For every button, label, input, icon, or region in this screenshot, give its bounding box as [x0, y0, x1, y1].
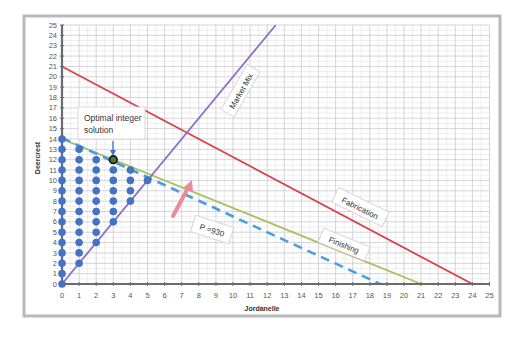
feasible-point — [58, 218, 66, 226]
feasible-point — [58, 280, 66, 288]
chart: 0123456789101112131415161718192021222324… — [0, 0, 523, 337]
feasible-point — [110, 177, 118, 185]
feasible-point — [58, 208, 66, 216]
x-tick-label: 23 — [451, 291, 459, 300]
feasible-point — [110, 218, 118, 226]
feasible-point — [92, 208, 100, 216]
y-axis-title: Deercrest — [34, 141, 41, 174]
y-tick-label: 10 — [49, 176, 57, 185]
feasible-point — [58, 187, 66, 195]
y-tick-label: 22 — [49, 52, 57, 61]
x-tick-label: 14 — [297, 291, 305, 300]
y-tick-label: 25 — [49, 21, 57, 30]
x-tick-label: 25 — [485, 291, 493, 300]
x-tick-label: 24 — [468, 291, 476, 300]
x-tick-label: 15 — [314, 291, 322, 300]
y-tick-label: 0 — [53, 280, 57, 289]
feasible-point — [92, 156, 100, 164]
feasible-point — [92, 177, 100, 185]
feasible-point — [75, 197, 83, 205]
x-tick-label: 3 — [111, 291, 115, 300]
y-tick-label: 19 — [49, 83, 57, 92]
x-tick-label: 6 — [163, 291, 167, 300]
y-tick-label: 18 — [49, 93, 57, 102]
callout-line2: solution — [84, 125, 114, 135]
feasible-point — [110, 208, 118, 216]
x-tick-label: 17 — [349, 291, 357, 300]
x-tick-label: 21 — [417, 291, 425, 300]
y-tick-label: 16 — [49, 114, 57, 123]
feasible-point — [58, 166, 66, 174]
feasible-point — [58, 249, 66, 257]
y-tick-label: 1 — [53, 269, 57, 278]
y-tick-label: 14 — [49, 135, 57, 144]
feasible-point — [75, 249, 83, 257]
y-tick-label: 7 — [53, 207, 57, 216]
feasible-point — [92, 187, 100, 195]
feasible-point — [75, 259, 83, 267]
feasible-point — [110, 166, 118, 174]
feasible-point — [58, 259, 66, 267]
y-tick-label: 3 — [53, 249, 57, 258]
feasible-point — [127, 166, 135, 174]
feasible-point — [75, 208, 83, 216]
feasible-point — [58, 177, 66, 185]
feasible-point — [92, 197, 100, 205]
optimal-point — [110, 156, 118, 164]
y-tick-label: 20 — [49, 72, 57, 81]
x-tick-label: 9 — [214, 291, 218, 300]
x-tick-label: 19 — [383, 291, 391, 300]
y-tick-label: 23 — [49, 41, 57, 50]
y-tick-label: 11 — [49, 166, 57, 175]
x-tick-label: 20 — [400, 291, 408, 300]
y-tick-label: 15 — [49, 124, 57, 133]
feasible-point — [127, 187, 135, 195]
x-tick-label: 16 — [331, 291, 339, 300]
x-tick-label: 12 — [263, 291, 271, 300]
feasible-point — [92, 218, 100, 226]
feasible-point — [92, 166, 100, 174]
x-tick-label: 10 — [229, 291, 237, 300]
feasible-point — [58, 228, 66, 236]
callout-line1: Optimal integer — [84, 113, 142, 123]
feasible-point — [75, 156, 83, 164]
feasible-point — [144, 177, 152, 185]
x-tick-label: 13 — [280, 291, 288, 300]
feasible-point — [58, 156, 66, 164]
y-tick-label: 4 — [53, 238, 57, 247]
x-tick-label: 2 — [94, 291, 98, 300]
x-tick-label: 7 — [180, 291, 184, 300]
feasible-point — [110, 187, 118, 195]
feasible-point — [75, 187, 83, 195]
y-tick-label: 21 — [49, 62, 57, 71]
feasible-point — [75, 146, 83, 154]
feasible-point — [127, 177, 135, 185]
x-tick-label: 22 — [434, 291, 442, 300]
feasible-point — [75, 228, 83, 236]
feasible-point — [92, 228, 100, 236]
feasible-point — [58, 239, 66, 247]
feasible-point — [110, 197, 118, 205]
y-tick-label: 13 — [49, 145, 57, 154]
y-tick-label: 9 — [53, 186, 57, 195]
y-tick-label: 5 — [53, 228, 57, 237]
x-tick-label: 4 — [128, 291, 132, 300]
y-tick-label: 2 — [53, 259, 57, 268]
feasible-point — [127, 197, 135, 205]
feasible-point — [58, 197, 66, 205]
y-tick-label: 24 — [49, 31, 57, 40]
x-tick-label: 8 — [197, 291, 201, 300]
feasible-point — [92, 239, 100, 247]
y-tick-label: 12 — [49, 155, 57, 164]
y-tick-label: 8 — [53, 197, 57, 206]
feasible-point — [75, 177, 83, 185]
x-tick-label: 1 — [77, 291, 81, 300]
x-tick-label: 0 — [60, 291, 64, 300]
feasible-point — [75, 166, 83, 174]
feasible-point — [58, 135, 66, 143]
x-tick-label: 11 — [246, 291, 254, 300]
y-tick-label: 6 — [53, 217, 57, 226]
feasible-point — [75, 218, 83, 226]
feasible-point — [58, 146, 66, 154]
y-tick-label: 17 — [49, 103, 57, 112]
